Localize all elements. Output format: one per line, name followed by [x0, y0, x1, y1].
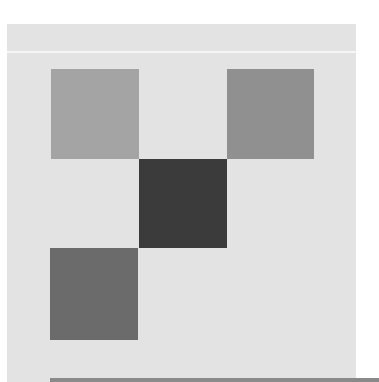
tile-center	[139, 159, 227, 248]
header-divider	[7, 51, 356, 53]
tile-bottom-left	[50, 248, 138, 340]
tile-top-right	[227, 69, 314, 159]
tile-top-left	[51, 69, 139, 159]
bottom-bar	[50, 378, 379, 382]
canvas	[0, 0, 379, 382]
